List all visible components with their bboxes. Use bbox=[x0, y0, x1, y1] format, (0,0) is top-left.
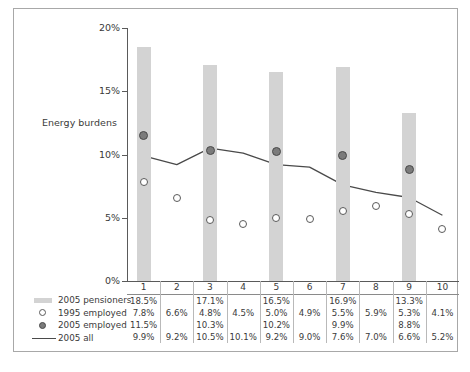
table-cell: 18.5% bbox=[127, 295, 160, 307]
table-cell: 11.5% bbox=[127, 319, 160, 331]
legend-item-2005-pensioners[interactable]: 2005 pensioners bbox=[32, 294, 130, 306]
table-column-header: 2 bbox=[160, 281, 193, 294]
table-column-header: 9 bbox=[393, 281, 426, 294]
y-tick-label: 0% bbox=[60, 276, 120, 286]
table-cell: 5.5% bbox=[326, 307, 359, 319]
legend-label: 1995 employed bbox=[58, 307, 127, 319]
table-cell: 6.6% bbox=[160, 307, 193, 319]
chart-figure: Energy burdens 0%5%10%15%20% 12345678910… bbox=[13, 8, 458, 352]
bar-2005-pensioners[interactable] bbox=[402, 113, 416, 281]
table-cell: 5.3% bbox=[393, 307, 426, 319]
table-cell: 4.5% bbox=[227, 307, 260, 319]
plot-region: Energy burdens 0%5%10%15%20% bbox=[127, 20, 459, 281]
y-tick-label: 15% bbox=[60, 86, 120, 96]
table-cell: 5.9% bbox=[359, 307, 392, 319]
table-column-header: 10 bbox=[426, 281, 459, 294]
filled-circle-icon bbox=[39, 322, 46, 329]
table-cell: 6.6% bbox=[393, 331, 426, 343]
table-cell: 8.8% bbox=[393, 319, 426, 331]
point-1995-employed[interactable] bbox=[306, 215, 314, 223]
table-cell: 10.2% bbox=[260, 319, 293, 331]
legend-label: 2005 pensioners bbox=[58, 294, 131, 306]
table-cell: 4.1% bbox=[426, 307, 459, 319]
table-column-header: 6 bbox=[293, 281, 326, 294]
point-1995-employed[interactable] bbox=[173, 194, 181, 202]
table-cell: 5.0% bbox=[260, 307, 293, 319]
table-cell: 10.1% bbox=[227, 331, 260, 343]
legend-label: 2005 all bbox=[58, 332, 93, 344]
open-circle-icon bbox=[39, 309, 46, 316]
point-1995-employed[interactable] bbox=[140, 178, 148, 186]
legend-item-2005-employed[interactable]: 2005 employed bbox=[32, 319, 130, 331]
point-2005-employed[interactable] bbox=[405, 165, 414, 174]
y-tick-label: 5% bbox=[60, 213, 120, 223]
table-cell: 5.2% bbox=[426, 331, 459, 343]
y-tick-label: 10% bbox=[60, 150, 120, 160]
table-cell: 13.3% bbox=[393, 295, 426, 307]
table-cell: 7.6% bbox=[326, 331, 359, 343]
table-column-header: 5 bbox=[260, 281, 293, 294]
table-cell: 16.5% bbox=[260, 295, 293, 307]
bar-2005-pensioners[interactable] bbox=[269, 72, 283, 281]
bar-2005-pensioners[interactable] bbox=[137, 47, 151, 281]
y-axis-title: Energy burdens bbox=[42, 117, 132, 128]
table-cell: 4.9% bbox=[293, 307, 326, 319]
y-tick-label: 20% bbox=[60, 23, 120, 33]
table-cell: 9.9% bbox=[326, 319, 359, 331]
bar-2005-pensioners[interactable] bbox=[203, 65, 217, 281]
bar-swatch-icon bbox=[34, 298, 52, 303]
table-cell: 9.9% bbox=[127, 331, 160, 343]
table-cell: 10.3% bbox=[193, 319, 226, 331]
table-cell: 4.8% bbox=[193, 307, 226, 319]
bar-2005-pensioners[interactable] bbox=[336, 67, 350, 281]
table-cell: 7.8% bbox=[127, 307, 160, 319]
data-table: 1234567891018.5%17.1%16.5%16.9%13.3%7.8%… bbox=[127, 281, 459, 343]
legend-item-1995-employed[interactable]: 1995 employed bbox=[32, 307, 130, 319]
line-segment-icon bbox=[32, 338, 56, 339]
table-column-header: 4 bbox=[227, 281, 260, 294]
chart-legend: 2005 pensioners 1995 employed 2005 emplo… bbox=[32, 294, 130, 344]
legend-label: 2005 employed bbox=[58, 319, 127, 331]
table-column-header: 8 bbox=[359, 281, 392, 294]
table-column-header: 7 bbox=[326, 281, 359, 294]
legend-item-2005-all[interactable]: 2005 all bbox=[32, 332, 130, 344]
figure-caption bbox=[16, 362, 316, 371]
table-cell: 9.2% bbox=[160, 331, 193, 343]
table-cell: 16.9% bbox=[326, 295, 359, 307]
table-cell: 9.0% bbox=[293, 331, 326, 343]
table-column-header: 1 bbox=[127, 281, 160, 294]
table-cell: 10.5% bbox=[193, 331, 226, 343]
point-2005-employed[interactable] bbox=[206, 146, 215, 155]
plot-area bbox=[127, 28, 459, 281]
table-cell: 9.2% bbox=[260, 331, 293, 343]
table-cell: 7.0% bbox=[359, 331, 392, 343]
table-cell: 17.1% bbox=[193, 295, 226, 307]
table-column-header: 3 bbox=[193, 281, 226, 294]
